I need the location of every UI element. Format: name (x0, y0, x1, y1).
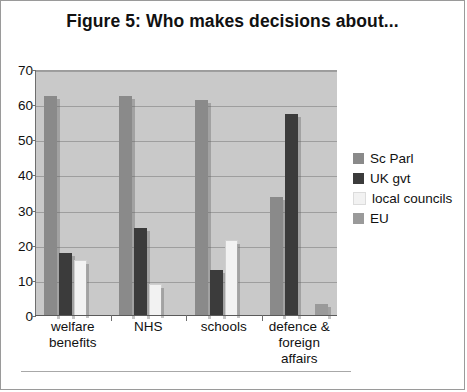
y-axis-tick-label: 70 (5, 63, 33, 78)
x-axis-label-line: NHS (111, 319, 187, 335)
x-axis-label-line: welfare (35, 319, 111, 335)
bar (74, 260, 87, 316)
plot-area (35, 70, 337, 316)
x-axis-label-line: foreign (262, 335, 338, 351)
bar (134, 228, 147, 316)
x-axis-label: schools (186, 319, 262, 335)
x-axis-label: welfarebenefits (35, 319, 111, 351)
y-axis-tick-label: 0 (5, 309, 33, 324)
bar (59, 253, 72, 316)
legend-swatch-icon (353, 173, 364, 184)
legend-item: UK gvt (353, 169, 463, 188)
x-axis-label: NHS (111, 319, 187, 335)
legend-item-label: EU (370, 211, 389, 226)
bar (149, 284, 162, 316)
figure-container: Figure 5: Who makes decisions about... 0… (0, 0, 465, 390)
bar (285, 114, 298, 316)
x-axis-label-line: affairs (262, 351, 338, 367)
y-axis-tick-label: 40 (5, 168, 33, 183)
bar (119, 96, 132, 316)
bar (270, 197, 283, 316)
y-axis: 010203040506070 (1, 1, 33, 392)
x-axis-label-line: defence & (262, 319, 338, 335)
y-axis-tick (31, 316, 36, 317)
y-axis-tick (31, 246, 36, 247)
bar-group (263, 71, 339, 316)
x-axis-label: defence &foreignaffairs (262, 319, 338, 367)
chart-title: Figure 5: Who makes decisions about... (1, 11, 464, 32)
y-axis-tick (31, 140, 36, 141)
x-axis-label-line: benefits (35, 335, 111, 351)
chart-legend: Sc ParlUK gvtlocal councilsEU (353, 149, 463, 229)
y-axis-tick (31, 70, 36, 71)
y-axis-tick-label: 20 (5, 238, 33, 253)
bar-group (112, 71, 188, 316)
bar (210, 270, 223, 316)
x-axis-tick (111, 315, 112, 321)
y-axis-tick (31, 175, 36, 176)
bar (195, 100, 208, 316)
legend-item-label: Sc Parl (370, 151, 414, 166)
legend-swatch-icon (353, 153, 364, 164)
y-axis-tick (31, 105, 36, 106)
legend-item: local councils (353, 189, 463, 208)
legend-item: Sc Parl (353, 149, 463, 168)
bar-group (187, 71, 263, 316)
y-axis-tick-label: 60 (5, 98, 33, 113)
y-axis-tick-label: 30 (5, 203, 33, 218)
y-axis-tick (31, 281, 36, 282)
x-axis-tick (186, 315, 187, 321)
legend-item-label: local councils (372, 191, 452, 206)
x-axis-tick (262, 315, 263, 321)
footer-rule (21, 371, 351, 372)
legend-item: EU (353, 209, 463, 228)
x-axis-labels: welfarebenefitsNHSschoolsdefence &foreig… (35, 319, 337, 389)
y-axis-tick (31, 211, 36, 212)
bar (44, 96, 57, 316)
legend-item-label: UK gvt (370, 171, 411, 186)
bar-group (36, 71, 112, 316)
x-axis-label-line: schools (186, 319, 262, 335)
y-axis-tick-label: 10 (5, 273, 33, 288)
y-axis-tick-label: 50 (5, 133, 33, 148)
bar (225, 240, 238, 316)
legend-swatch-icon (353, 213, 364, 224)
legend-swatch-icon (353, 192, 366, 205)
